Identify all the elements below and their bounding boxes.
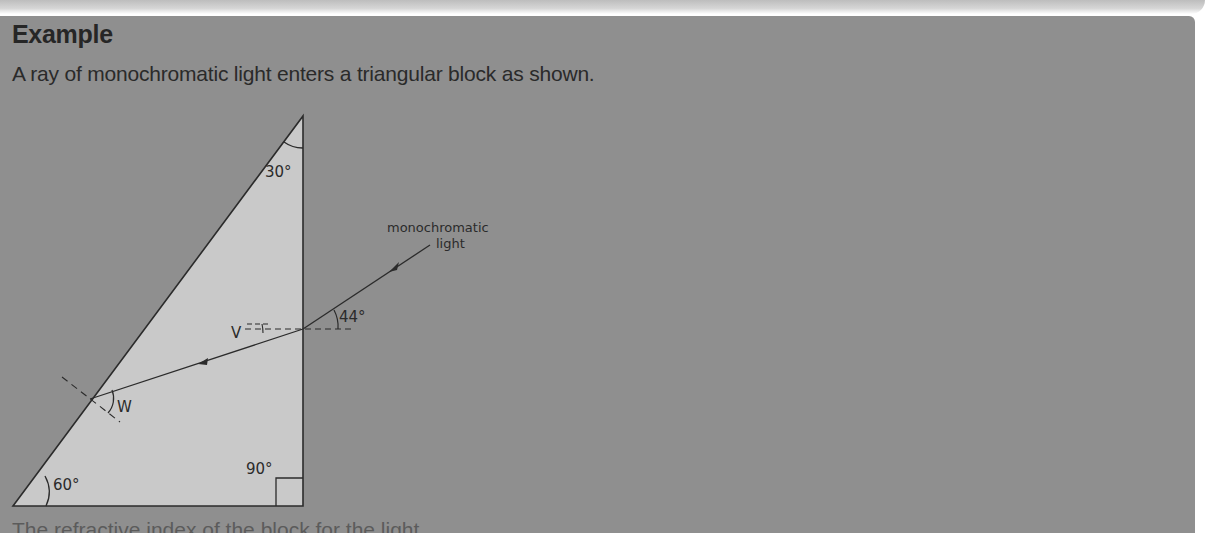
angle-label-60: 60° [53,476,80,494]
angle-arc-44 [334,310,338,329]
angle-label-44: 44° [339,308,366,326]
page: Example A ray of monochromatic light ent… [0,0,1205,533]
incident-ray-arrow-icon [389,262,399,272]
incident-ray [303,245,430,329]
continuation-text-cropped: The refractive index of the block for th… [12,518,437,533]
point-label-v: V [231,324,242,342]
angle-label-30: 30° [265,163,292,181]
ray-label-line1: monochromatic [387,220,489,235]
triangular-block [13,116,303,506]
prism-refraction-diagram: 30° 60° 90° 44° V W monochromatic light [0,0,1205,533]
ray-label-line2: light [436,236,465,251]
point-label-w: W [117,398,132,416]
angle-label-90: 90° [246,460,273,478]
